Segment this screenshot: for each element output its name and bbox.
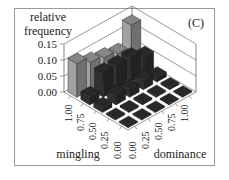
dominance-tick: [162, 111, 164, 114]
dominance-tick: [189, 96, 191, 99]
dominance-tick: [148, 119, 150, 122]
z-tick-label: 0.10: [38, 54, 58, 66]
y-axis-label-dominance: dominance: [154, 147, 207, 161]
mingling-tick: [68, 96, 70, 99]
mingling-tick: [120, 126, 122, 129]
bar3d-chart: relative frequency (C) mingling dominanc…: [0, 0, 229, 180]
dominance-tick-label: 0.75: [166, 114, 177, 132]
mingling-tick-label: 1.00: [63, 105, 74, 123]
z-axis-label-line2: frequency: [24, 24, 72, 38]
mingling-tick: [81, 103, 83, 106]
dominance-tick-label: 0.00: [127, 142, 138, 160]
bar-top: [119, 116, 137, 127]
bar-top: [161, 78, 179, 89]
dominance-tick-label: 1.00: [179, 105, 190, 123]
z-tick-labels: 0.00 0.05 0.10 0.15: [38, 38, 58, 98]
panel-label: (C): [188, 16, 204, 30]
mingling-tick: [107, 119, 109, 122]
z-tick-label: 0.05: [38, 70, 58, 82]
dominance-tick: [135, 126, 137, 129]
z-tick-label: 0.00: [38, 86, 58, 98]
x-axis-label-mingling: mingling: [56, 147, 99, 161]
bar-top: [146, 101, 164, 112]
mingling-tick: [94, 111, 96, 114]
mingling-tick-label: 0.00: [112, 142, 123, 160]
wall-gridline: [64, 6, 132, 44]
bar-top: [133, 109, 151, 120]
bar-top: [160, 93, 178, 104]
z-axis-label-line1: relative: [30, 10, 66, 24]
bar-face-left: [68, 58, 77, 97]
mingling-tick-label: 0.50: [87, 123, 98, 141]
dominance-tick-label: 0.50: [153, 123, 164, 141]
bar-top: [106, 108, 124, 119]
bar-top: [120, 100, 138, 111]
mingling-tick-label: 0.25: [99, 132, 110, 150]
wall-gridline: [132, 6, 196, 44]
bar-top: [174, 86, 192, 97]
dominance-tick-label: 0.25: [140, 132, 151, 150]
dominance-tick: [176, 103, 178, 106]
z-tick-label: 0.15: [38, 38, 58, 50]
bar-top: [147, 85, 165, 96]
bar-top: [134, 93, 152, 104]
mingling-tick-label: 0.75: [75, 114, 86, 132]
